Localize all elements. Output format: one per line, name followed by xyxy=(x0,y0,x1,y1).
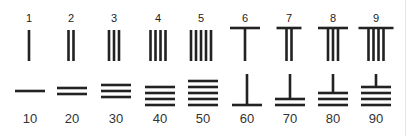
numeral-50: 50 xyxy=(188,81,218,126)
numeral-4: 4 xyxy=(151,12,166,61)
numeral-60: 60 xyxy=(232,74,262,126)
numeral-label: 30 xyxy=(109,111,123,126)
numeral-label: 5 xyxy=(198,12,204,24)
numeral-90: 90 xyxy=(361,74,391,126)
rod-numerals-figure: 123456789 102030405060708090 xyxy=(0,0,408,136)
numeral-label: 60 xyxy=(240,111,254,126)
numeral-label: 40 xyxy=(153,111,167,126)
numeral-70: 70 xyxy=(275,74,305,126)
numeral-label: 6 xyxy=(242,12,248,24)
numeral-3: 3 xyxy=(109,12,119,61)
tens-row: 102030405060708090 xyxy=(15,74,391,126)
numeral-7: 7 xyxy=(277,12,302,61)
units-row: 123456789 xyxy=(26,12,394,61)
numeral-1: 1 xyxy=(26,12,32,61)
numeral-label: 10 xyxy=(23,111,37,126)
numeral-label: 20 xyxy=(65,111,79,126)
numeral-8: 8 xyxy=(318,12,348,61)
numeral-5: 5 xyxy=(191,12,211,61)
numeral-6: 6 xyxy=(230,12,260,61)
numeral-label: 8 xyxy=(330,12,336,24)
numeral-label: 2 xyxy=(68,12,74,24)
numeral-label: 90 xyxy=(369,111,383,126)
numeral-label: 1 xyxy=(26,12,32,24)
numeral-10: 10 xyxy=(15,91,45,126)
numeral-label: 70 xyxy=(283,111,297,126)
numeral-label: 80 xyxy=(326,111,340,126)
numeral-80: 80 xyxy=(318,74,348,126)
numeral-label: 7 xyxy=(286,12,292,24)
numeral-30: 30 xyxy=(101,85,131,126)
numeral-label: 4 xyxy=(155,12,161,24)
numeral-label: 3 xyxy=(111,12,117,24)
figure-border xyxy=(405,0,406,136)
numeral-40: 40 xyxy=(145,87,175,126)
numeral-label: 50 xyxy=(196,111,210,126)
numeral-20: 20 xyxy=(57,88,87,126)
numeral-2: 2 xyxy=(68,12,74,61)
numeral-label: 9 xyxy=(373,12,379,24)
numeral-9: 9 xyxy=(359,12,394,61)
